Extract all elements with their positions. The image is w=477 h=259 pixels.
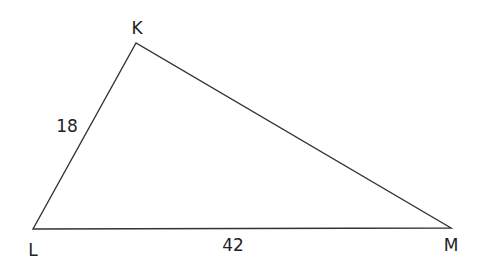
vertex-label-k: K	[131, 18, 143, 38]
triangle-klm	[33, 43, 451, 229]
vertex-label-l: L	[28, 240, 38, 259]
vertex-label-m: M	[444, 235, 459, 255]
triangle-diagram: K L M 18 42	[0, 0, 477, 259]
side-label-kl: 18	[56, 116, 78, 136]
side-label-lm: 42	[222, 235, 244, 255]
